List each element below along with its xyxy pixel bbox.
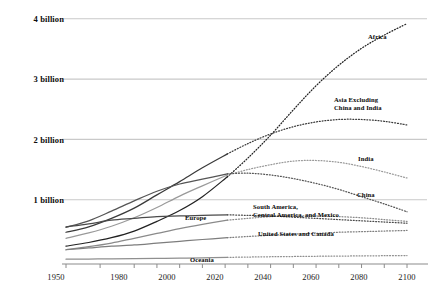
series-label-europe: Europe [185, 214, 206, 222]
series-label-india: India [358, 155, 374, 163]
series-label-africa: Africa [368, 33, 387, 41]
chart-plot-area [0, 0, 435, 301]
series-label-line-0: China [357, 191, 375, 199]
series-label-line-0: South America, [253, 203, 339, 211]
series-label-south-america-central-america-and-mexico: South America,Central America, and Mexic… [253, 203, 339, 219]
series-line-projected-1 [227, 119, 407, 154]
y-tick-label-2b: 2 billion [2, 135, 64, 145]
y-tick-label-3b: 3 billion [2, 74, 64, 84]
series-label-line-0: Africa [368, 33, 387, 41]
series-label-asia-excluding-china-and-india: Asia ExcludingChina and India [334, 96, 382, 112]
series-line-historical-4 [66, 220, 227, 250]
series-label-line-1: Central America, and Mexico [253, 211, 339, 219]
series-label-china: China [357, 191, 375, 199]
x-tick-label-2020: 2020 [200, 272, 230, 282]
y-tick-label-4b: 4 billion [2, 14, 64, 24]
series-label-line-0: United States and Canada [258, 230, 334, 238]
series-line-projected-7 [227, 256, 407, 258]
series-line-historical-2 [66, 175, 227, 238]
series-label-line-1: China and India [334, 104, 382, 112]
x-tick-label-2040: 2040 [248, 272, 278, 282]
series-line-projected-2 [227, 160, 407, 178]
series-line-historical-6 [66, 238, 227, 250]
series-label-line-0: Europe [185, 214, 206, 222]
series-label-line-0: Asia Excluding [334, 96, 382, 104]
x-tick-label-2060: 2060 [296, 272, 326, 282]
series-label-line-0: Oceania [190, 256, 214, 264]
x-tick-label-1950: 1950 [41, 272, 71, 282]
x-tick-label-2000: 2000 [152, 272, 182, 282]
series-label-oceania: Oceania [190, 256, 214, 264]
x-tick-label-2080: 2080 [344, 272, 374, 282]
x-tick-label-2100: 2100 [392, 272, 422, 282]
x-tick-label-1980: 1980 [104, 272, 134, 282]
y-tick-label-1b: 1 billion [2, 195, 64, 205]
series-label-line-0: India [358, 155, 374, 163]
population-projection-chart: 4 billion 3 billion 2 billion 1 billion … [0, 0, 435, 301]
series-label-united-states-and-canada: United States and Canada [258, 230, 334, 238]
